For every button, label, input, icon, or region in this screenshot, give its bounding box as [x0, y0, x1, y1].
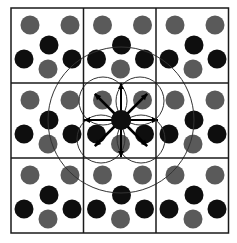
- gray-atom: [206, 166, 225, 185]
- gray-atom: [206, 16, 225, 35]
- gray-atom: [133, 16, 152, 35]
- black-atom: [87, 200, 106, 219]
- black-atom: [208, 200, 227, 219]
- gray-atom: [61, 16, 80, 35]
- gray-atom: [111, 60, 130, 79]
- black-atom: [208, 125, 227, 144]
- gray-atom: [21, 91, 40, 110]
- black-atom: [15, 200, 34, 219]
- arrowhead-icon: [118, 151, 124, 157]
- black-atom: [40, 186, 59, 205]
- black-atom: [87, 50, 106, 69]
- black-atom: [185, 36, 204, 55]
- gray-atom: [21, 166, 40, 185]
- black-atom: [87, 125, 106, 144]
- lattice-diagram: [0, 0, 237, 243]
- gray-atom: [61, 91, 80, 110]
- black-atom: [112, 36, 131, 55]
- gray-atom: [93, 16, 112, 35]
- black-atom: [185, 186, 204, 205]
- central-atom-layer: [111, 110, 131, 130]
- black-atom: [63, 200, 82, 219]
- black-atom: [15, 125, 34, 144]
- lattice-svg: [0, 0, 237, 243]
- gray-atom: [166, 91, 185, 110]
- black-atom: [135, 50, 154, 69]
- gray-atom: [206, 91, 225, 110]
- black-atom: [15, 50, 34, 69]
- black-atom: [208, 50, 227, 69]
- black-atom: [40, 111, 59, 130]
- gray-atom: [93, 166, 112, 185]
- gray-atom: [111, 210, 130, 229]
- black-atom: [63, 125, 82, 144]
- arrowhead-icon: [84, 117, 90, 123]
- gray-atom: [184, 210, 203, 229]
- central-atom: [111, 110, 131, 130]
- gray-atom: [184, 60, 203, 79]
- black-atom: [160, 200, 179, 219]
- gray-atom: [39, 210, 58, 229]
- black-atom: [40, 36, 59, 55]
- black-atom: [112, 186, 131, 205]
- black-atom: [135, 200, 154, 219]
- gray-atom: [184, 135, 203, 154]
- gray-atom: [21, 16, 40, 35]
- gray-atom: [61, 166, 80, 185]
- gray-atom: [166, 16, 185, 35]
- gray-atom: [39, 60, 58, 79]
- gray-atom: [133, 166, 152, 185]
